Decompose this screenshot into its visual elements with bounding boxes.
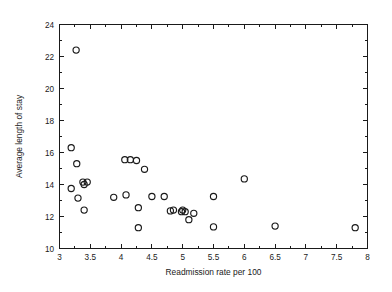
data-point [75,195,81,201]
data-point [81,207,87,213]
y-tick-label: 20 [45,85,55,94]
plot-canvas: 33.544.555.566.577.581012141618202224Rea… [0,0,392,292]
data-point [186,217,192,223]
x-tick-label: 5.5 [208,253,220,262]
x-tick-label: 5 [180,253,185,262]
data-point [210,224,216,230]
data-point [161,193,167,199]
data-point [135,225,141,231]
data-point [272,223,278,229]
y-tick-label: 22 [45,53,55,62]
data-point [68,185,74,191]
y-tick-label: 24 [45,21,55,30]
y-tick-label: 12 [45,213,55,222]
x-axis-title: Readmission rate per 100 [166,267,262,277]
data-point [111,194,117,200]
data-point [135,205,141,211]
data-point [123,192,129,198]
data-point [133,157,139,163]
x-axis: 33.544.555.566.577.58 [57,25,370,263]
data-point [191,210,197,216]
plot-frame [60,25,368,249]
data-point [149,193,155,199]
x-tick-label: 8 [365,253,370,262]
data-point [352,225,358,231]
data-point [210,193,216,199]
y-tick-label: 16 [45,149,55,158]
x-tick-label: 7.5 [331,253,343,262]
y-axis-title: Average length of stay [14,94,24,178]
data-point [241,176,247,182]
data-point [74,161,80,167]
x-tick-label: 4.5 [146,253,158,262]
x-tick-label: 3 [57,253,62,262]
scatter-plot-figure: 33.544.555.566.577.581012141618202224Rea… [0,0,392,292]
y-axis: 1012141618202224 [45,21,368,254]
data-series [68,47,358,231]
x-tick-label: 6.5 [269,253,281,262]
data-point [141,166,147,172]
y-tick-label: 18 [45,117,55,126]
x-tick-label: 3.5 [85,253,97,262]
data-point [73,47,79,53]
x-tick-label: 7 [304,253,309,262]
y-tick-label: 10 [45,245,55,254]
data-point [68,145,74,151]
x-tick-label: 6 [242,253,247,262]
y-tick-label: 14 [45,181,55,190]
x-tick-label: 4 [119,253,124,262]
